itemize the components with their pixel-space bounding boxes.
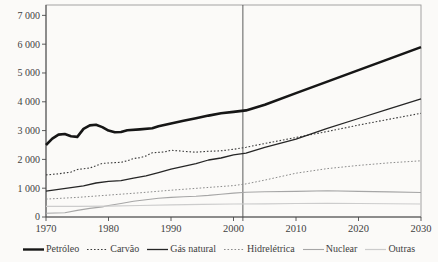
- legend-item-nuclear: Nuclear: [303, 244, 358, 254]
- energy-outlook-figure: 01 0002 0003 0004 0005 0006 0007 0001970…: [0, 0, 438, 262]
- legend-label: Petróleo: [46, 244, 79, 254]
- x-axis-tick-label: 2000: [223, 223, 244, 234]
- legend-label: Outras: [388, 244, 415, 254]
- x-axis-tick-label: 2010: [286, 223, 307, 234]
- series-line-nuclear: [46, 191, 421, 214]
- legend-item-hidrel-trica: Hidrelétrica: [224, 244, 295, 254]
- y-axis-tick-label: 2 000: [18, 154, 41, 165]
- legend-label: Hidrelétrica: [247, 244, 295, 254]
- x-axis-tick-label: 2020: [348, 223, 369, 234]
- y-axis-tick-label: 4 000: [18, 96, 41, 107]
- chart-canvas: 01 0002 0003 0004 0005 0006 0007 0001970…: [0, 0, 438, 262]
- x-axis-tick-label: 2030: [411, 223, 432, 234]
- series-line-carv-o: [46, 113, 421, 175]
- legend-swatch-line: [224, 246, 245, 253]
- y-axis-tick-label: 3 000: [18, 125, 41, 136]
- x-axis-tick-label: 1980: [98, 223, 119, 234]
- legend-swatch-line: [365, 246, 386, 253]
- y-axis-tick-label: 5 000: [18, 67, 41, 78]
- y-axis-tick-label: 7 000: [18, 10, 41, 21]
- legend-swatch-line: [87, 246, 108, 253]
- legend-label: Nuclear: [326, 244, 358, 254]
- y-axis-tick-label: 1 000: [18, 183, 41, 194]
- y-axis-tick-label: 6 000: [18, 39, 41, 50]
- legend-swatch-line: [303, 246, 324, 253]
- legend-swatch-line: [147, 246, 168, 253]
- x-axis-tick-label: 1970: [36, 223, 57, 234]
- y-axis-tick-label: 0: [35, 211, 40, 222]
- legend-item-g-s-natural: Gás natural: [147, 244, 216, 254]
- series-line-outras: [46, 203, 421, 206]
- legend-swatch-line: [23, 246, 44, 253]
- legend-item-outras: Outras: [365, 244, 415, 254]
- legend-label: Gás natural: [170, 244, 216, 254]
- x-axis-tick-label: 1990: [161, 223, 182, 234]
- chart-legend: PetróleoCarvãoGás naturalHidrelétricaNuc…: [0, 237, 438, 261]
- legend-label: Carvão: [110, 244, 139, 254]
- legend-item-petr-leo: Petróleo: [23, 244, 79, 254]
- series-line-petr-leo: [46, 47, 421, 145]
- legend-item-carv-o: Carvão: [87, 244, 139, 254]
